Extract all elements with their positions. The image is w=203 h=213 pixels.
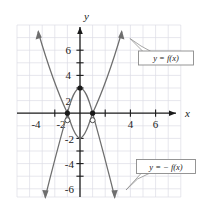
x-tick-label-6: 6 bbox=[153, 118, 159, 130]
y-tick-label-6: 6 bbox=[66, 44, 72, 56]
y-axis-arrow bbox=[77, 27, 83, 34]
y-tick-label-4: 4 bbox=[66, 69, 72, 81]
y-tick-label--6: -6 bbox=[65, 183, 75, 195]
callout-upper: y = f(x) bbox=[130, 39, 194, 66]
callout-lower: y = − f(x) bbox=[126, 160, 196, 191]
point-root-2-0 bbox=[90, 111, 95, 116]
graph-figure: -4 -2 4 6 6 4 2 -2 -4 -6 y x bbox=[0, 0, 203, 213]
y-axis-label: y bbox=[83, 10, 89, 22]
x-axis-arrow bbox=[169, 110, 176, 116]
coordinate-plane: -4 -2 4 6 6 4 2 -2 -4 -6 y x bbox=[0, 0, 203, 213]
x-tick-label--4: -4 bbox=[31, 118, 41, 130]
x-axis-label: x bbox=[184, 107, 190, 119]
callout-lower-label: y = − f(x) bbox=[148, 162, 183, 172]
callout-upper-label: y = f(x) bbox=[152, 53, 179, 63]
x-tick-label-4: 4 bbox=[128, 118, 134, 130]
open-circle-right bbox=[90, 118, 95, 123]
y-tick-label--4: -4 bbox=[65, 158, 75, 170]
point-vertex-0-4 bbox=[77, 85, 82, 90]
point-root-minus-2-0 bbox=[65, 111, 70, 116]
open-circle-left bbox=[65, 118, 70, 123]
callout-upper-pointer bbox=[130, 39, 151, 52]
y-tick-label--2: -2 bbox=[65, 133, 74, 145]
